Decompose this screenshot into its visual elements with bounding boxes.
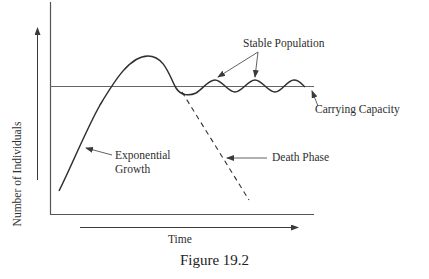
exponential-growth-label-line1: Exponential: [115, 149, 171, 162]
exponential-growth-label-line2: Growth: [115, 163, 150, 176]
stable-population-arrow-2: [255, 52, 258, 77]
stable-population-label: Stable Population: [243, 37, 324, 50]
population-curve: [59, 56, 305, 191]
exponential-growth-arrow: [86, 148, 112, 155]
x-axis-label: Time: [168, 233, 192, 246]
death-phase-label: Death Phase: [272, 151, 329, 164]
population-growth-diagram: [0, 0, 429, 279]
y-axis-label: Number of Individuals: [11, 104, 23, 244]
figure-caption: Figure 19.2: [0, 252, 429, 269]
carrying-capacity-label: Carrying Capacity: [315, 103, 400, 116]
death-phase-line: [182, 92, 249, 200]
stable-population-arrow-1: [218, 52, 258, 77]
